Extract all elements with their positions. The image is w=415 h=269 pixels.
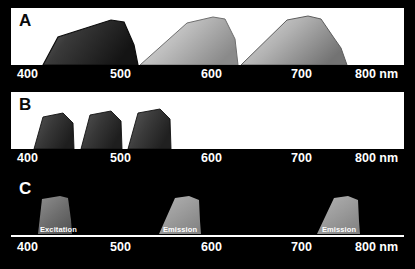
panel-a-tick-800: 800 nm [355, 67, 398, 81]
panel-a-tick-600: 600 [201, 67, 222, 81]
panel-b-bands [11, 92, 404, 149]
panel-b-tick-800: 800 nm [355, 151, 398, 165]
panel-a-axis: 400 500 600 700 800 nm [11, 65, 404, 83]
panel-c-tick-600: 600 [201, 240, 222, 254]
band-a-1 [43, 20, 138, 65]
panel-b-tick-600: 600 [201, 151, 222, 165]
panel-b-letter: B [19, 96, 31, 113]
band-b-3 [128, 109, 171, 149]
panel-a-plot [11, 8, 404, 65]
panel-b-tick-500: 500 [110, 151, 131, 165]
panel-a-tick-400: 400 [17, 67, 38, 81]
panel-b-axis: 400 500 600 700 800 nm [11, 149, 404, 167]
band-label-emission-2: Emission [322, 225, 356, 234]
band-a-2 [140, 17, 238, 65]
panel-c-tick-400: 400 [17, 240, 38, 254]
band-a-3 [241, 16, 347, 65]
band-label-emission-1: Emission [163, 225, 197, 234]
panel-c-axis: 400 500 600 700 800 nm [11, 238, 404, 256]
panel-b-tick-700: 700 [291, 151, 312, 165]
panel-c-tick-800: 800 nm [355, 240, 398, 254]
band-label-excitation: Excitation [40, 225, 77, 234]
panel-c-letter: C [19, 180, 31, 197]
panel-b: B [11, 92, 404, 149]
panel-a: A [11, 8, 404, 65]
panel-a-bands [11, 8, 404, 65]
panel-a-tick-500: 500 [110, 67, 131, 81]
panel-b-tick-400: 400 [17, 151, 38, 165]
panel-b-plot [11, 92, 404, 149]
panel-c-baseline [11, 235, 404, 237]
panel-a-tick-700: 700 [291, 67, 312, 81]
spectral-figure: A 400 500 600 700 800 nm [0, 0, 415, 269]
panel-c: C Excitation Emission Emission [11, 176, 404, 238]
panel-c-tick-500: 500 [110, 240, 131, 254]
band-b-2 [81, 111, 122, 149]
band-b-1 [34, 113, 74, 149]
panel-a-letter: A [19, 12, 31, 29]
panel-c-tick-700: 700 [291, 240, 312, 254]
